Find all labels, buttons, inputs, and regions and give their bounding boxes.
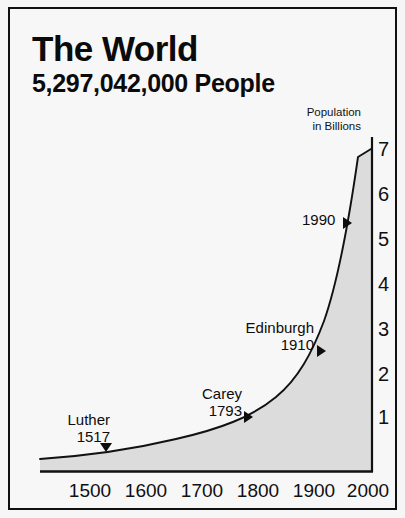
annotation-1990: 1990	[302, 212, 335, 229]
x-tick-2000: 2000	[347, 481, 389, 500]
annotation-carey-pointer-icon	[244, 411, 253, 423]
annotation-edinburgh-name: Edinburgh	[216, 320, 314, 337]
chart-frame: The World 5,297,042,000 People Populatio…	[8, 7, 397, 510]
annotation-carey-name: Carey	[178, 386, 242, 403]
annotation-luther-name: Luther	[52, 412, 110, 429]
annotation-luther-pointer-icon	[100, 443, 112, 452]
x-tick-1800: 1800	[237, 481, 279, 500]
annotation-luther: Luther 1517	[52, 412, 110, 446]
annotation-1990-pointer-icon	[343, 217, 352, 229]
annotation-edinburgh-pointer-icon	[317, 345, 326, 357]
x-axis-ticks: 1500 1600 1700 1800 1900 2000	[24, 481, 394, 509]
x-tick-1700: 1700	[181, 481, 223, 500]
annotation-carey: Carey 1793	[178, 386, 242, 420]
x-tick-1600: 1600	[125, 481, 167, 500]
annotation-carey-year: 1793	[178, 403, 242, 420]
title-main: The World	[32, 31, 362, 67]
x-tick-1900: 1900	[293, 481, 335, 500]
title-population-count: 5,297,042,000 People	[32, 69, 362, 97]
page-title: The World 5,297,042,000 People	[32, 31, 362, 97]
chart-page: The World 5,297,042,000 People Populatio…	[0, 0, 405, 518]
annotation-edinburgh-year: 1910	[216, 337, 314, 354]
y-axis-label-line1: Population	[307, 106, 361, 118]
annotation-edinburgh: Edinburgh 1910	[216, 320, 314, 354]
annotation-1990-year: 1990	[302, 212, 335, 229]
x-tick-1500: 1500	[69, 481, 111, 500]
